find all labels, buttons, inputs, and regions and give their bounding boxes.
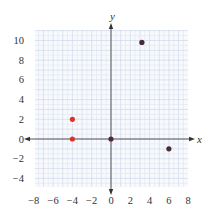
x-axis-arrow-left [24,137,30,141]
x-tick-label: 0 [108,195,113,206]
x-tick-label: −2 [86,195,97,206]
x-tick-label: −6 [48,195,59,206]
x-tick-label: 2 [128,195,133,206]
x-tick-label: −4 [67,195,79,206]
y-tick-labels: 1086420−2−4 [13,35,25,184]
y-tick-label: 4 [19,94,25,105]
y-tick-label: 8 [19,55,24,66]
data-point [139,40,144,45]
x-axis-arrow-right [189,137,195,141]
y-tick-label: −4 [13,173,25,184]
data-point [166,146,171,151]
y-tick-label: 10 [14,35,25,46]
y-axis-label: y [109,10,115,22]
data-point [108,136,113,141]
data-point [70,117,75,122]
x-tick-labels: −8−6−4−202468 [28,195,191,206]
x-tick-label: 6 [166,195,171,206]
y-axis-arrow-top [109,23,113,29]
x-tick-label: 8 [186,195,191,206]
y-tick-label: 2 [19,114,24,125]
coordinate-plane-chart: x y −8−6−4−202468 1086420−2−4 [0,0,214,223]
y-tick-label: 6 [19,74,24,85]
data-point [70,136,75,141]
x-tick-label: 4 [147,195,153,206]
x-axis-label: x [196,133,202,145]
x-tick-label: −8 [28,195,39,206]
y-tick-label: 0 [19,134,24,145]
y-tick-label: −2 [13,153,24,164]
